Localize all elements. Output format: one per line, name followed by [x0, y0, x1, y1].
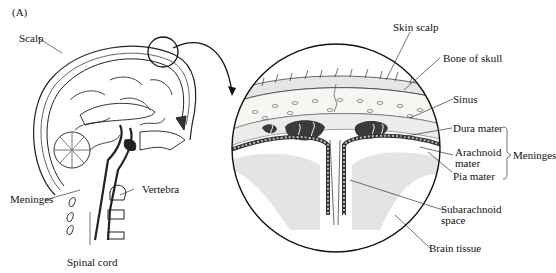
label-scalp: Scalp [19, 32, 43, 44]
head-sagittal-drawing [34, 37, 196, 240]
label-arachnoid-mater-line2: mater [455, 157, 480, 169]
label-spinal-cord: Spinal cord [67, 256, 117, 268]
label-brain-tissue: Brain tissue [429, 242, 481, 254]
label-dura-mater: Dura mater [453, 122, 503, 134]
label-pia-mater: Pia mater [453, 170, 495, 182]
label-bone-of-skull: Bone of skull [443, 52, 502, 64]
panel-label: (A) [12, 6, 27, 18]
label-skin-scalp: Skin scalp [393, 21, 439, 33]
label-sinus: Sinus [453, 93, 477, 105]
meninges-detail-drawing [230, 68, 445, 230]
label-subarachnoid-line2: space [441, 214, 465, 226]
label-meninges-group: Meninges [513, 149, 556, 161]
anatomy-illustration [0, 0, 556, 273]
magnified-circle [232, 44, 440, 252]
label-vertebra: Vertebra [142, 183, 179, 195]
meninges-anatomy-figure: (A) Scalp Meninges Vertebra Spinal cord … [0, 0, 556, 273]
label-meninges-left: Meninges [10, 193, 53, 205]
